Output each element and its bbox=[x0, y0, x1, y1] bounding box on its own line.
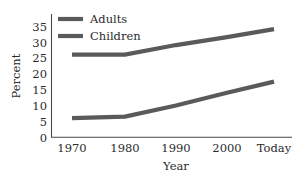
legend-label-adults: Adults bbox=[89, 12, 127, 26]
x-tick-label-today: Today bbox=[257, 141, 292, 155]
legend-label-children: Children bbox=[90, 29, 141, 43]
y-tick-label-25: 25 bbox=[32, 51, 47, 65]
y-tick-label-5: 5 bbox=[40, 115, 47, 129]
x-tick-label-1970: 1970 bbox=[57, 141, 86, 155]
y-tick-label-20: 20 bbox=[32, 67, 47, 81]
x-tick-label-2000: 2000 bbox=[212, 141, 241, 155]
y-tick-label-30: 30 bbox=[32, 36, 47, 50]
x-axis-title: Year bbox=[162, 159, 189, 173]
y-axis-title: Percent bbox=[9, 53, 23, 98]
line-chart: 0 5 10 15 20 25 30 35 1970 1980 1990 200… bbox=[0, 0, 298, 177]
y-tick-label-0: 0 bbox=[40, 131, 47, 145]
x-tick-label-1990: 1990 bbox=[161, 141, 190, 155]
x-tick-label-1980: 1980 bbox=[110, 141, 139, 155]
y-tick-label-10: 10 bbox=[32, 99, 47, 113]
chart-screenshot: 0 5 10 15 20 25 30 35 1970 1980 1990 200… bbox=[0, 0, 298, 177]
y-tick-label-15: 15 bbox=[32, 83, 47, 97]
y-tick-label-35: 35 bbox=[32, 20, 47, 34]
